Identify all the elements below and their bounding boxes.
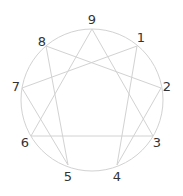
point-label-6: 6 [21,136,29,149]
point-label-7: 7 [12,80,20,93]
connection-line-2-8 [46,46,161,88]
connection-line-9-3 [92,29,153,136]
outer-circle [21,29,163,171]
point-label-3: 3 [153,136,161,149]
point-label-9: 9 [88,13,96,26]
point-label-4: 4 [113,170,121,183]
point-label-2: 2 [163,80,171,93]
enneagram-diagram [0,0,183,196]
point-label-1: 1 [137,31,145,44]
point-label-8: 8 [38,35,46,48]
point-label-5: 5 [64,170,72,183]
